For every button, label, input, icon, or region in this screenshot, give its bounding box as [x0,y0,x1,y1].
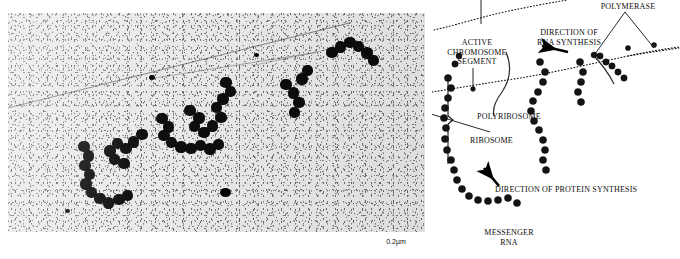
ribosome [465,192,472,199]
ribosome [542,166,549,173]
label-polyribosome: POLYRIBOSOME [477,112,597,122]
ribosome [577,98,584,105]
ribosome [539,156,546,163]
rna-polymerase-particle [471,87,476,92]
ribosome [621,75,627,81]
ribosome [539,78,546,85]
ribosome [574,88,581,95]
ribosome [443,146,450,153]
diagram-panel: POLYMERASE DIRECTION OF RNA SYNTHESIS AC… [432,0,680,259]
ribosome [576,58,583,65]
ribosome [577,78,584,85]
ribosome [444,94,451,101]
ribosome [541,68,548,75]
label-ribosome: RIBOSOME [470,136,530,146]
ribosome [440,114,447,121]
label-polymerase: POLYMERASE [584,2,672,12]
ribosome [529,97,536,104]
rna-polymerase-particle [651,42,656,47]
ribosome [444,74,451,81]
figure-root: 0.2µm [0,0,680,259]
ribosome [484,197,491,204]
ribosome [541,146,548,153]
ribosome [453,176,460,183]
ribosome [597,53,603,59]
ribosome [535,126,542,133]
scale-bar-label: 0.2µm [370,236,422,248]
label-messenger-rna: MESSENGER RNA [474,228,544,247]
ribosome [615,69,621,75]
label-active-chromosome-segment: ACTIVE CHROMOSOME SEGMENT [436,38,518,67]
micrograph-vignette [8,13,425,232]
ribosome [536,58,543,65]
ribosome [579,68,586,75]
ribosome [450,166,457,173]
micrograph-panel: 0.2µm [0,0,432,259]
ribosome [442,124,449,131]
ribosome [458,185,465,192]
ribosome [447,156,454,163]
label-direction-of-protein-synthesis: DIRECTION OF PROTEIN SYNTHESIS [495,185,655,195]
rna-polymerase-particle [625,45,630,50]
ribosome [609,63,615,69]
ribosome [504,194,511,201]
ribosome [447,84,454,91]
ribosome [539,136,546,143]
scale-bar: 0.2µm [370,236,422,250]
ribosome [603,59,609,65]
ribosome [534,88,541,95]
label-direction-of-rna-synthesis: DIRECTION OF RNA SYNTHESIS [530,28,608,47]
ribosome [474,196,481,203]
ribosome [513,199,520,206]
ribosome [441,104,448,111]
electron-micrograph-image [8,13,425,232]
ribosome [494,196,501,203]
ribosome [441,135,448,142]
rna-polymerase-particle [591,52,597,58]
